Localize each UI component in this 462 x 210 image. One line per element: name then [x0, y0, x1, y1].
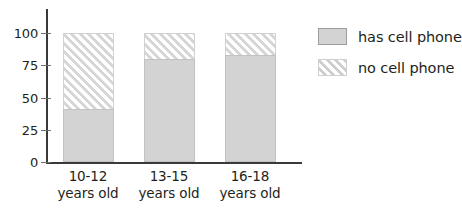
bar-10-12-years-old [63, 33, 114, 162]
y-tick-label-75: 75 [4, 59, 38, 72]
x-axis-line [46, 162, 302, 164]
y-tick-mark-25 [41, 130, 51, 131]
legend-item-has-cell-phone: has cell phone [318, 28, 456, 45]
bar-segment-has-cell-phone [144, 59, 195, 162]
y-tick-label-100: 100 [4, 27, 38, 40]
x-axis-label-16-18-years-old: 16-18 years old [202, 168, 298, 202]
y-tick-label-25-wrap: 25 [0, 124, 38, 137]
legend-solid-gray-swatch-icon [318, 28, 347, 45]
legend-item-no-cell-phone: no cell phone [318, 59, 456, 76]
y-tick-mark-100 [41, 33, 51, 34]
bar-segment-has-cell-phone [225, 55, 276, 162]
bar-segment-has-cell-phone [63, 109, 114, 162]
y-tick-mark-50 [41, 98, 51, 99]
bar-13-15-years-old [144, 33, 195, 162]
bar-segment-no-cell-phone [225, 33, 276, 56]
chart-legend: has cell phone no cell phone [318, 28, 456, 90]
bar-segment-no-cell-phone [63, 33, 114, 110]
legend-label-no-cell-phone: no cell phone [358, 60, 454, 76]
y-tick-label-0: 0 [4, 156, 38, 169]
y-tick-label-0-wrap: 0 [0, 156, 38, 169]
bar-16-18-years-old [225, 33, 276, 162]
x-axis-label-line1: 16-18 [202, 168, 298, 185]
plot-area: 100 75 50 25 0 10-12 [0, 0, 310, 210]
y-tick-mark-75 [41, 65, 51, 66]
y-tick-label-50-wrap: 50 [0, 92, 38, 105]
y-tick-label-25: 25 [4, 124, 38, 137]
legend-hatched-swatch-icon [318, 59, 347, 76]
y-tick-label-50: 50 [4, 92, 38, 105]
y-tick-label-100-wrap: 100 [0, 27, 38, 40]
y-tick-mark-0 [41, 162, 51, 163]
bar-segment-no-cell-phone [144, 33, 195, 60]
legend-label-has-cell-phone: has cell phone [358, 29, 462, 45]
x-axis-label-line2: years old [202, 185, 298, 202]
y-tick-label-75-wrap: 75 [0, 59, 38, 72]
